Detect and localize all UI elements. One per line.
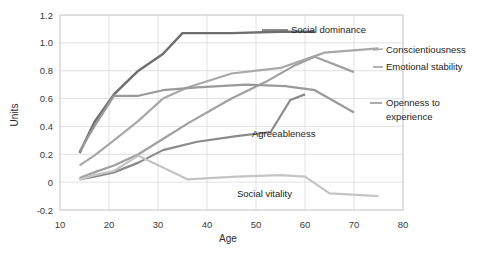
- chart-background: [0, 0, 487, 268]
- y-tick-label: 1.2: [40, 10, 53, 21]
- series-label-openness-to-experience: Openness to: [386, 97, 440, 108]
- x-tick-label: 20: [104, 219, 115, 230]
- x-tick-label: 40: [202, 219, 213, 230]
- y-tick-label: 0.4: [40, 121, 53, 132]
- series-label-openness-to-experience-line2: experience: [386, 111, 432, 122]
- y-tick-label: 0.2: [40, 149, 53, 160]
- y-tick-label: 0: [48, 177, 53, 188]
- y-tick-label: -0.2: [37, 205, 53, 216]
- x-tick-label: 50: [251, 219, 262, 230]
- series-label-social-dominance: Social dominance: [291, 24, 366, 35]
- y-tick-label: 0.6: [40, 93, 53, 104]
- x-tick-label: 80: [398, 219, 409, 230]
- x-tick-label: 70: [349, 219, 360, 230]
- x-tick-label: 10: [55, 219, 66, 230]
- x-axis-title: Age: [219, 233, 237, 244]
- series-label-emotional-stability: Emotional stability: [386, 61, 463, 72]
- chart-container: -0.200.20.40.60.81.01.2 1020304050607080…: [0, 0, 487, 268]
- x-tick-label: 60: [300, 219, 311, 230]
- y-tick-label: 0.8: [40, 65, 53, 76]
- series-label-conscientiousness: Conscientiousness: [386, 44, 466, 55]
- series-label-social-vitality: Social vitality: [237, 188, 292, 199]
- series-leader-conscientiousness: [373, 49, 383, 50]
- y-tick-label: 1.0: [40, 37, 53, 48]
- y-axis-title: Units: [9, 104, 20, 127]
- line-chart: -0.200.20.40.60.81.01.2 1020304050607080…: [0, 0, 487, 268]
- series-label-agreeableness: Agreeableness: [252, 128, 316, 139]
- x-tick-label: 30: [153, 219, 164, 230]
